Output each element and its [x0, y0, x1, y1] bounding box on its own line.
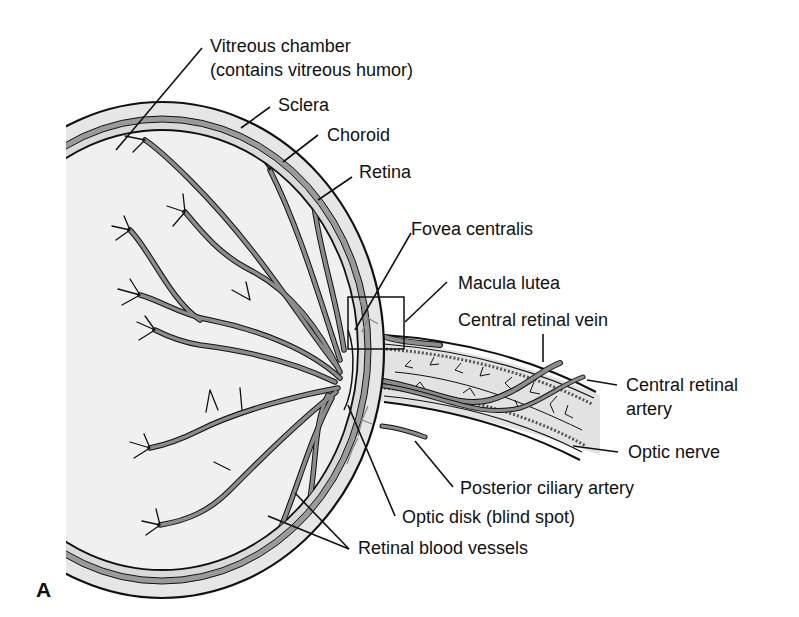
- eye-illustration: [0, 0, 799, 617]
- label-posterior-ciliary-artery: Posterior ciliary artery: [460, 477, 634, 499]
- label-vitreous-chamber-note: (contains vitreous humor): [210, 59, 413, 81]
- label-optic-disk: Optic disk (blind spot): [402, 506, 575, 528]
- label-choroid: Choroid: [327, 124, 390, 146]
- optic-nerve: [372, 335, 600, 460]
- eye-anatomy-diagram: Vitreous chamber (contains vitreous humo…: [0, 0, 799, 617]
- label-fovea-centralis: Fovea centralis: [411, 218, 533, 240]
- label-central-retinal-vein: Central retinal vein: [458, 309, 608, 331]
- label-vitreous-chamber: Vitreous chamber: [210, 35, 351, 57]
- label-central-retinal-artery-line2: artery: [626, 398, 672, 420]
- label-macula-lutea: Macula lutea: [458, 272, 560, 294]
- label-central-retinal-artery: Central retinal: [626, 374, 738, 396]
- label-retina: Retina: [359, 161, 411, 183]
- label-optic-nerve: Optic nerve: [628, 441, 720, 463]
- label-retinal-blood-vessels: Retinal blood vessels: [358, 537, 528, 559]
- panel-label: A: [36, 578, 51, 602]
- label-sclera: Sclera: [278, 94, 329, 116]
